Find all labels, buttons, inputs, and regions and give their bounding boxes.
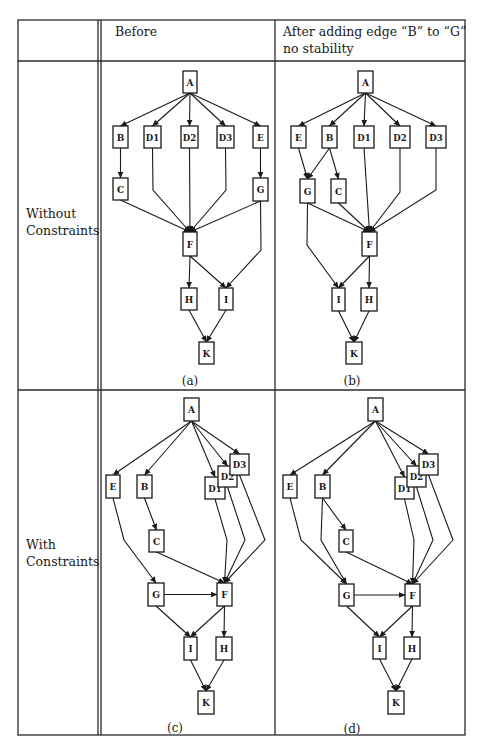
edge-F-I <box>380 606 413 637</box>
node-label: G <box>304 187 312 197</box>
graph-caption: (c) <box>167 721 183 735</box>
edge-A-D3 <box>366 93 437 126</box>
edge-F-I <box>339 256 370 288</box>
edge-A-B <box>121 93 191 126</box>
edge-G-I <box>156 606 191 637</box>
node-I: I <box>219 288 233 310</box>
edge-D1-F <box>405 499 415 584</box>
graph-a: ABD1D2D3ECGFHIK(a) <box>113 71 268 388</box>
node-K: K <box>346 342 362 364</box>
edge-A-D2 <box>376 421 417 466</box>
node-label: E <box>295 133 302 143</box>
node-label: A <box>361 78 370 88</box>
node-D1: D1 <box>354 126 374 148</box>
node-label: K <box>350 349 359 359</box>
node-label: F <box>366 240 373 250</box>
node-E: E <box>291 126 306 148</box>
graph-caption: (a) <box>182 374 199 388</box>
edge-B-C <box>330 148 339 179</box>
edge-D2-F <box>190 148 191 232</box>
edge-I-K <box>207 310 227 342</box>
node-C: C <box>149 530 164 552</box>
node-label: B <box>319 482 327 492</box>
row-label-without-line2: Constraints <box>26 222 100 239</box>
node-label: H <box>408 644 417 654</box>
row-label-with-line2: Constraints <box>26 553 100 570</box>
edge-D1-F <box>215 499 227 583</box>
node-B: B <box>315 475 330 498</box>
edge-A-D2 <box>192 421 228 466</box>
node-K: K <box>388 691 404 714</box>
node-D3: D3 <box>217 126 234 148</box>
node-I: I <box>332 288 345 311</box>
node-label: I <box>188 644 192 654</box>
node-label: D2 <box>393 133 406 143</box>
edge-D2-F <box>370 148 401 232</box>
node-A: A <box>358 71 373 93</box>
node-label: D3 <box>233 460 246 470</box>
edge-F-I <box>190 256 226 288</box>
edge-B-C <box>145 498 157 530</box>
node-label: D3 <box>219 133 232 143</box>
edge-D1-F <box>153 148 191 232</box>
node-D2: D2 <box>181 126 198 148</box>
edge-A-D3 <box>190 93 226 126</box>
edge-A-E <box>299 93 366 126</box>
node-label: D1 <box>357 133 370 143</box>
graph-c: AEBD1D2D3CGFIHK(c) <box>106 398 265 735</box>
edge-D1-F <box>364 148 370 232</box>
node-H: H <box>361 288 377 311</box>
node-C: C <box>113 178 128 200</box>
nodes: ABD1D2D3ECGFHIK <box>113 71 268 364</box>
edge-I-K <box>339 311 355 342</box>
node-label: D3 <box>422 460 435 470</box>
edge-A-D1 <box>153 93 191 126</box>
header-before: Before <box>115 23 157 40</box>
node-E: E <box>283 475 297 498</box>
graph-caption: (d) <box>343 722 360 736</box>
edge-C-F <box>121 200 191 232</box>
row-label-with-line1: With <box>26 536 56 553</box>
edge-F-I <box>191 606 225 637</box>
node-F: F <box>183 232 197 256</box>
node-label: D3 <box>429 133 442 143</box>
node-G: G <box>148 583 164 606</box>
node-H: H <box>404 637 420 659</box>
edge-A-D2 <box>366 93 401 126</box>
header-after-line1: After adding edge “B” to “G” <box>283 23 466 40</box>
edge-D3-F <box>413 475 454 584</box>
node-label: B <box>141 482 149 492</box>
node-label: K <box>202 698 211 708</box>
node-label: E <box>257 133 264 143</box>
node-A: A <box>183 71 197 93</box>
node-label: A <box>371 405 380 415</box>
node-K: K <box>198 691 214 714</box>
node-label: I <box>377 644 381 654</box>
graph-caption: (b) <box>343 374 360 388</box>
edge-E-G <box>299 148 308 179</box>
edge-D2-F <box>413 487 434 584</box>
node-H: H <box>216 637 232 660</box>
node-label: H <box>365 295 374 305</box>
node-label: H <box>185 295 194 305</box>
edge-A-D2 <box>190 93 191 126</box>
node-label: B <box>117 133 125 143</box>
edge-H-K <box>396 659 412 691</box>
node-label: K <box>203 349 212 359</box>
edge-C-F <box>346 552 413 584</box>
node-label: C <box>342 537 349 547</box>
node-A: A <box>368 398 383 421</box>
edge-C-F <box>157 552 225 583</box>
node-E: E <box>253 126 268 148</box>
table-grid: ABD1D2D3ECGFHIK(a)AEBD1D2D3GCFIHK(b)AEBD… <box>0 0 481 750</box>
node-label: I <box>336 295 340 305</box>
edge-G-I <box>347 606 380 637</box>
node-label: D1 <box>146 133 159 143</box>
node-label: G <box>152 590 160 600</box>
node-K: K <box>199 342 214 364</box>
edge-H-K <box>189 310 207 342</box>
node-label: E <box>110 482 117 492</box>
edge-D3-F <box>225 475 266 583</box>
edge-E-G <box>290 498 347 584</box>
node-label: C <box>335 187 342 197</box>
